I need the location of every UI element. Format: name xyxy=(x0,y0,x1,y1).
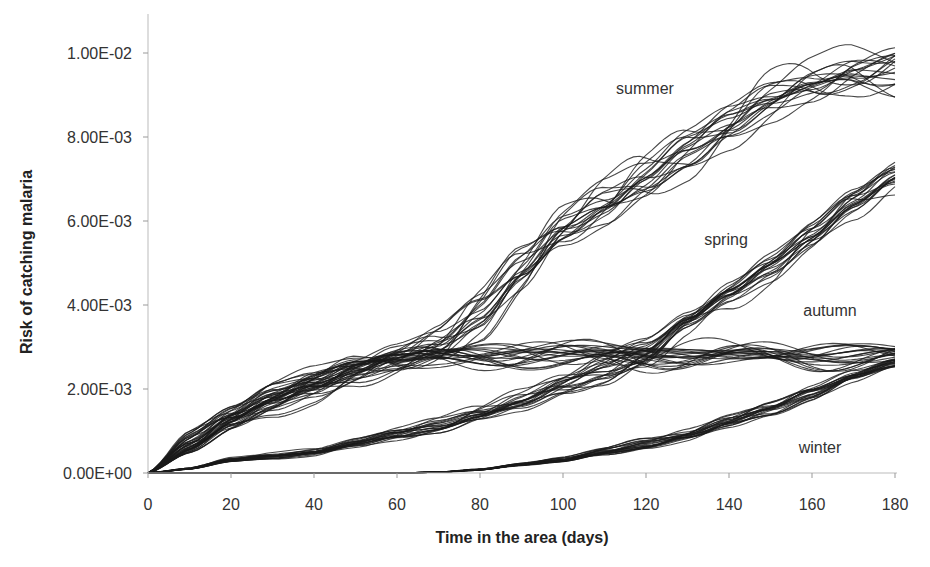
x-tick-label: 100 xyxy=(550,496,577,513)
y-axis-ticks: 0.00E+002.00E-034.00E-036.00E-038.00E-03… xyxy=(63,45,148,482)
y-tick-label: 6.00E-03 xyxy=(67,213,132,230)
x-tick-label: 0 xyxy=(144,496,153,513)
run-line-spring xyxy=(148,181,895,473)
x-tick-label: 20 xyxy=(222,496,240,513)
series-label-autumn: autumn xyxy=(803,302,856,319)
run-line-spring xyxy=(148,175,895,473)
y-tick-label: 0.00E+00 xyxy=(63,465,132,482)
run-line-spring xyxy=(148,182,895,473)
y-tick-label: 2.00E-03 xyxy=(67,381,132,398)
series-label-winter: winter xyxy=(798,439,842,456)
y-tick-label: 8.00E-03 xyxy=(67,129,132,146)
series-label-spring: spring xyxy=(704,231,748,248)
run-line-spring xyxy=(148,184,895,473)
run-line-spring xyxy=(148,168,895,473)
run-line-spring xyxy=(148,175,895,473)
run-line-spring xyxy=(148,177,895,473)
run-line-spring xyxy=(148,178,895,474)
run-line-spring xyxy=(148,178,895,473)
y-tick-label: 1.00E-02 xyxy=(67,45,132,62)
x-tick-label: 180 xyxy=(882,496,909,513)
run-line-spring xyxy=(148,166,895,473)
run-line-spring xyxy=(148,172,895,473)
run-line-spring xyxy=(148,162,895,473)
x-tick-label: 80 xyxy=(471,496,489,513)
x-tick-label: 160 xyxy=(799,496,826,513)
run-line-spring xyxy=(148,187,895,473)
run-line-spring xyxy=(148,167,895,473)
plot-runs xyxy=(148,45,895,473)
series-labels: summerspringautumnwinter xyxy=(616,80,857,456)
run-line-spring xyxy=(148,172,895,473)
run-line-spring xyxy=(148,178,895,473)
y-tick-label: 4.00E-03 xyxy=(67,297,132,314)
x-axis-ticks: 020406080100120140160180 xyxy=(144,473,909,513)
run-line-spring xyxy=(148,169,895,473)
series-label-summer: summer xyxy=(616,80,674,97)
run-line-spring xyxy=(148,170,895,474)
x-tick-label: 120 xyxy=(633,496,660,513)
run-line-spring xyxy=(148,180,895,473)
x-axis-title: Time in the area (days) xyxy=(435,529,608,546)
x-tick-label: 140 xyxy=(716,496,743,513)
run-line-spring xyxy=(148,195,895,473)
x-tick-label: 60 xyxy=(388,496,406,513)
y-axis-title: Risk of catching malaria xyxy=(18,170,35,354)
x-tick-label: 40 xyxy=(305,496,323,513)
malaria-risk-chart: 0.00E+002.00E-034.00E-036.00E-038.00E-03… xyxy=(0,0,930,567)
